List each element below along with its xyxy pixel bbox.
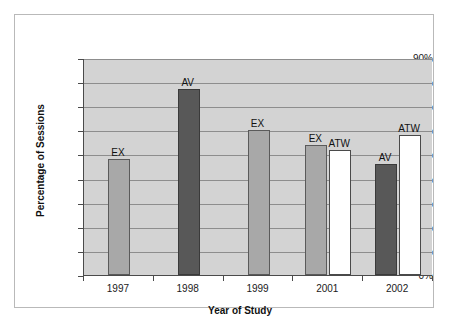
bar (248, 130, 270, 275)
y-axis-title: Percentage of Sessions (35, 71, 46, 251)
bar-label: AV (168, 77, 208, 88)
bar (329, 150, 351, 275)
x-axis-tick-label: 1998 (153, 283, 223, 294)
x-axis-tick (83, 276, 84, 281)
bar-label: ATW (389, 123, 429, 134)
bar (108, 159, 130, 275)
plot-area (83, 59, 432, 276)
x-axis-tick-label: 1999 (223, 283, 293, 294)
chart-figure: Percentage of Sessions 0%10%20%30%40%50%… (0, 0, 450, 326)
bar (178, 89, 200, 275)
gridline (84, 59, 432, 60)
x-axis-tick (223, 276, 224, 281)
x-axis-tick (292, 276, 293, 281)
x-axis-title: Year of Study (15, 305, 450, 316)
x-axis-tick-label: 1997 (83, 283, 153, 294)
x-axis-tick (362, 276, 363, 281)
figure-frame: Percentage of Sessions 0%10%20%30%40%50%… (14, 14, 434, 308)
x-axis-tick (432, 276, 433, 281)
bar-label: EX (98, 147, 138, 158)
bar-label: ATW (319, 138, 359, 149)
gridline (84, 83, 432, 84)
x-axis-tick (153, 276, 154, 281)
x-axis-tick-label: 2002 (362, 283, 432, 294)
bar-label: EX (238, 118, 278, 129)
gridline (84, 107, 432, 108)
bar-label: AV (365, 152, 405, 163)
bar (375, 164, 397, 275)
x-axis-tick-label: 2001 (292, 283, 362, 294)
bar (305, 145, 327, 275)
